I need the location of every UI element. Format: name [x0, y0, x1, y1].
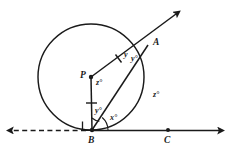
label-angle-at-A: y°	[131, 55, 138, 63]
geometry-figure: P A B C z° y° y° x° z° y	[0, 0, 231, 153]
label-point-P: P	[80, 71, 86, 81]
label-segment-PA: y	[124, 51, 128, 59]
label-point-C: C	[164, 136, 170, 146]
label-point-A: A	[153, 38, 159, 48]
point-dot-B	[90, 128, 94, 132]
label-angle-PBA: y°	[95, 107, 102, 115]
label-angle-at-P: z°	[96, 79, 102, 87]
point-dot-C	[166, 128, 170, 132]
geometry-canvas	[0, 0, 231, 153]
label-angle-ABC: x°	[110, 114, 117, 122]
segment-BA	[92, 45, 148, 130]
label-point-B: B	[88, 136, 94, 146]
point-dot-P	[89, 75, 93, 79]
label-arc-angle-right: z°	[153, 91, 159, 99]
